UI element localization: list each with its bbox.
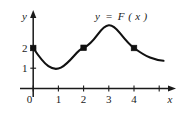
y-tick-label-1: 1	[22, 62, 28, 74]
x-tick-label-4: 4	[131, 93, 137, 105]
curve-label-arg: x	[134, 10, 140, 22]
marked-point-2-2	[81, 45, 87, 51]
curve-label-close-paren: )	[142, 10, 147, 23]
marked-point-4-2	[131, 45, 137, 51]
curve-equation-label: y = F ( x )	[94, 10, 147, 23]
x-axis-tick-labels: 0 1 2 3 4	[27, 93, 138, 105]
x-axis-arrowhead	[168, 85, 176, 91]
y-axis-label: y	[21, 10, 27, 22]
y-tick-label-2: 2	[22, 42, 28, 54]
y-axis: 1 2 y	[21, 10, 36, 97]
marked-point-0-2	[30, 45, 36, 51]
x-tick-label-1: 1	[56, 93, 62, 105]
x-axis-label: x	[167, 93, 173, 105]
curve-label-equals: =	[105, 10, 112, 22]
x-tick-label-2: 2	[81, 93, 87, 105]
curve-label-open-paren: (	[128, 10, 133, 23]
marked-points	[30, 45, 136, 51]
x-axis: 0 1 2 3 4 x	[20, 85, 176, 105]
function-curve	[33, 25, 163, 69]
function-graph-figure: 0 1 2 3 4 x 1 2 y	[0, 0, 186, 130]
y-axis-arrowhead	[30, 10, 36, 18]
plot-canvas: 0 1 2 3 4 x 1 2 y	[0, 0, 186, 130]
curve-label-y: y	[94, 10, 100, 22]
curve-label-fname: F	[117, 10, 125, 22]
x-tick-label-3: 3	[106, 93, 112, 105]
y-axis-tick-labels: 1 2	[22, 42, 28, 74]
x-tick-label-0: 0	[27, 93, 33, 105]
